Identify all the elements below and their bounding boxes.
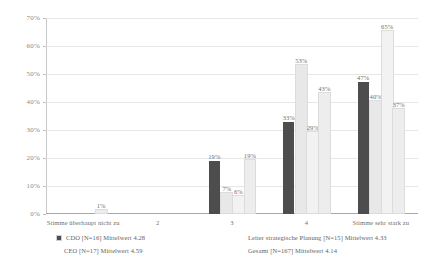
legend-item[interactable]: Gesamt [N=167] Mittelwert 4.14 [240,244,416,257]
bar-value-label: 6% [234,188,243,195]
bar-value-label: 43% [318,85,330,92]
bar-value-label: 47% [357,74,369,81]
bar: 33% [283,122,294,214]
legend-item[interactable]: CEO [N=17] Mittelwert 4.59 [56,244,232,257]
x-axis-tick-label: Stimme sehr stark zu [352,219,409,226]
legend-item[interactable]: Leiter strategische Planung [N=15] Mitte… [240,231,416,244]
y-axis-tick [43,186,46,187]
bar: 37% [392,108,405,214]
bar-value-label: 37% [393,101,405,108]
legend-label: Leiter strategische Planung [N=15] Mitte… [248,234,387,241]
bar: 19% [244,159,257,214]
y-axis-tick-label: 60% [27,42,40,50]
chart-legend: CDO [N=16] Mittelwert 4.28Leiter strateg… [56,231,416,257]
y-axis-tick-label: 70% [27,14,40,22]
bar-group: 47%40%65%37%Stimme sehr stark zu [358,18,404,214]
y-axis-line [46,18,47,214]
y-axis-tick [43,102,46,103]
legend-label: CEO [N=17] Mittelwert 4.59 [64,247,142,254]
y-axis-tick [43,18,46,19]
plot-inner: 0%10%20%30%40%50%60%70%1%Stimme überhaup… [46,18,418,214]
y-axis-tick [43,74,46,75]
bar: 19% [209,161,220,214]
y-axis-tick [43,214,46,215]
bar-value-label: 53% [295,57,307,64]
x-axis-tick-label: Stimme überhaupt nicht zu [47,219,120,226]
bar: 47% [358,82,369,214]
y-axis-tick [43,46,46,47]
bar-chart: 0%10%20%30%40%50%60%70%1%Stimme überhaup… [0,0,431,270]
bar-value-label: 19% [244,152,256,159]
y-axis-tick-label: 40% [27,98,40,106]
x-axis-tick-label: 4 [305,219,308,226]
bar: 1% [95,209,108,214]
bar-value-label: 7% [222,185,231,192]
legend-swatch-icon [56,235,62,241]
legend-label: CDO [N=16] Mittelwert 4.28 [66,234,145,241]
y-axis-tick-label: 20% [27,154,40,162]
x-axis-tick-label: 3 [230,219,233,226]
bar-value-label: 33% [283,114,295,121]
y-axis-tick [43,158,46,159]
bar-group: 1%Stimme überhaupt nicht zu [60,18,106,214]
bar-group: 19%7%6%19%3 [209,18,255,214]
bar-value-label: 19% [208,153,220,160]
legend-swatch-icon [56,249,60,253]
y-axis-tick-label: 10% [27,182,40,190]
x-axis-tick-label: 2 [156,219,159,226]
y-axis-tick-label: 50% [27,70,40,78]
legend-swatch-icon [240,236,244,240]
plot-area: 0%10%20%30%40%50%60%70%1%Stimme überhaup… [46,18,418,214]
y-axis-tick-label: 0% [30,210,40,218]
legend-label: Gesamt [N=167] Mittelwert 4.14 [248,247,337,254]
bar: 43% [318,92,331,214]
bar-value-label: 1% [97,202,106,209]
bar-value-label: 65% [381,23,393,30]
y-axis-tick [43,130,46,131]
legend-item[interactable]: CDO [N=16] Mittelwert 4.28 [56,231,232,244]
bar-group: 33%53%29%43%4 [283,18,329,214]
bar-group: 2 [135,18,181,214]
y-axis-tick-label: 30% [27,126,40,134]
legend-swatch-icon [240,249,244,253]
